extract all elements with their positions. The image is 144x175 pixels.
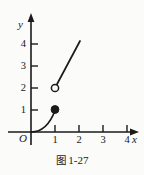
- x-tick-label-4: 4: [121, 135, 133, 146]
- x-tick-label-3: 3: [97, 135, 109, 146]
- caption-number: 1-27: [68, 154, 88, 166]
- y-tick-label-4: 4: [16, 39, 26, 50]
- y-tick-label-1: 1: [16, 105, 26, 116]
- y-tick-label-3: 3: [16, 61, 26, 72]
- y-axis-arrow-icon: [28, 13, 35, 22]
- figure-container: y x O 1 2 3 4 1 2 3 4 图 1-27: [0, 0, 144, 175]
- open-point-marker: [51, 84, 58, 91]
- line-branch: [56, 41, 81, 87]
- origin-label: O: [19, 133, 27, 144]
- caption-cjk-text: 图: [56, 154, 66, 166]
- x-tick-label-2: 2: [73, 135, 85, 146]
- figure-caption: 图 1-27: [0, 152, 144, 167]
- curve-branch: [31, 111, 55, 133]
- x-tick-label-1: 1: [49, 135, 61, 146]
- y-tick-label-2: 2: [16, 83, 26, 94]
- closed-point-marker: [51, 106, 59, 114]
- y-axis-label: y: [18, 19, 23, 30]
